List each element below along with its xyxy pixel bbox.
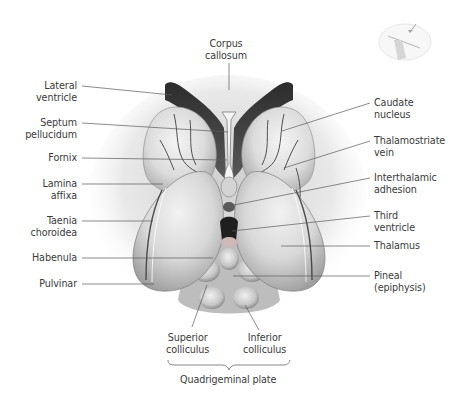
label-thalamus: Thalamus: [374, 240, 420, 252]
label-third-ventricle: Third ventricle: [374, 210, 415, 234]
quadrigeminal-brace: [168, 360, 290, 370]
label-septum-pellucidum: Septum pellucidum: [25, 117, 77, 141]
label-caudate-nucleus: Caudate nucleus: [374, 97, 414, 121]
label-interthalamic-adhesion: Interthalamic adhesion: [374, 172, 437, 196]
label-thalamostriate-vein: Thalamostriate vein: [374, 135, 445, 159]
label-quadrigeminal-plate: Quadrigeminal plate: [180, 374, 276, 386]
label-lateral-ventricle: Lateral ventricle: [36, 80, 77, 104]
label-inferior-colliculus: Inferior colliculus: [243, 332, 286, 356]
label-pulvinar: Pulvinar: [39, 278, 77, 290]
label-pineal: Pineal (epiphysis): [374, 270, 426, 294]
label-lamina-affixa: Lamina affixa: [42, 178, 77, 202]
label-taenia-choroidea: Taenia choroidea: [31, 215, 77, 239]
label-superior-colliculus: Superior colliculus: [166, 332, 209, 356]
label-habenula: Habenula: [32, 252, 77, 264]
label-fornix: Fornix: [48, 152, 77, 164]
label-corpus-callosum: Corpus callosum: [205, 38, 247, 62]
orientation-inset-icon: [379, 24, 431, 60]
